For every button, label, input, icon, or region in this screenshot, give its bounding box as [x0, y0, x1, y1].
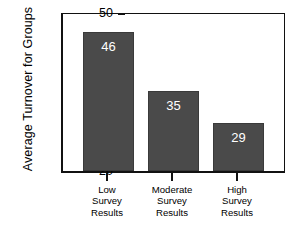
- y-tick-mark: [118, 13, 125, 15]
- bar-value-label: 46: [84, 39, 133, 54]
- x-tick-mark-high: [236, 173, 238, 181]
- x-tick-mark-low: [106, 173, 108, 181]
- bar-chart-figure: Average Turnover for Groups 50 40 30 20 …: [0, 0, 293, 226]
- y-tick-mark: [118, 171, 125, 173]
- y-tick-label: 50: [85, 6, 113, 21]
- x-category-high: High Survey Results: [194, 184, 280, 218]
- plot-area: 50 40 30 20 46 35 29: [63, 14, 284, 171]
- x-tick-mark-moderate: [171, 173, 173, 181]
- plot-frame: 50 40 30 20 46 35 29: [61, 13, 285, 173]
- x-category-line: Survey: [194, 195, 280, 206]
- bar-value-label: 29: [214, 130, 263, 145]
- y-axis-title: Average Turnover for Groups: [20, 0, 36, 179]
- bar-high: 29: [213, 123, 264, 171]
- x-category-line: Results: [194, 207, 280, 218]
- bar-moderate: 35: [148, 91, 199, 171]
- bar-low: 46: [83, 32, 134, 171]
- bar-value-label: 35: [149, 98, 198, 113]
- x-category-line: High: [194, 184, 280, 195]
